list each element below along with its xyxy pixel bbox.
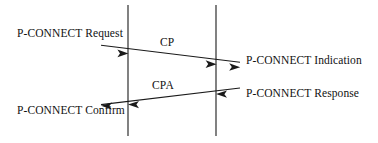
label-p-connect-request: P-CONNECT Request — [17, 27, 123, 40]
label-p-connect-confirm: P-CONNECT Confirm — [17, 104, 125, 117]
label-p-connect-indication: P-CONNECT Indication — [246, 54, 362, 67]
message-label-cpa: CPA — [152, 79, 174, 92]
diagram-vector-layer — [0, 0, 378, 143]
message-label-cp: CP — [160, 36, 174, 49]
label-p-connect-response: P-CONNECT Response — [246, 87, 359, 100]
sequence-diagram-canvas: P-CONNECT Request P-CONNECT Indication P… — [0, 0, 378, 143]
